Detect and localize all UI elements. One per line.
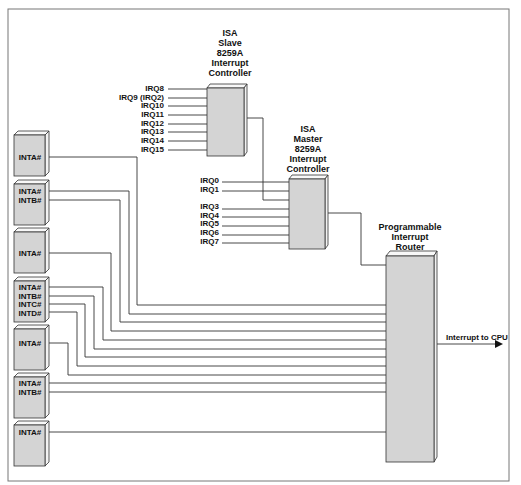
master-controller-box bbox=[289, 179, 325, 249]
irq-label: IRQ6 bbox=[200, 228, 219, 237]
router-box bbox=[386, 256, 434, 462]
pci-slot: INTA# INTB# INTC# INTD# bbox=[14, 277, 49, 322]
pin-label: INTB# bbox=[18, 196, 42, 205]
slave-title-line-2: Slave bbox=[218, 38, 242, 48]
router-title-line-2: Interrupt bbox=[392, 232, 429, 242]
irq-label: IRQ10 bbox=[141, 101, 165, 110]
master-title-line-5: Controller bbox=[286, 164, 329, 174]
pci-slot: INTA# INTB# bbox=[14, 373, 49, 418]
pci-slot: INTA# bbox=[14, 325, 49, 370]
master-title-line-4: Interrupt bbox=[290, 154, 327, 164]
pci-slot: INTA# INTB# bbox=[14, 180, 49, 225]
pin-label: INTA# bbox=[19, 379, 42, 388]
pin-label: INTA# bbox=[19, 187, 42, 196]
pin-label: INTA# bbox=[19, 283, 42, 292]
master-title-line-3: 8259A bbox=[295, 144, 322, 154]
irq-label: IRQ7 bbox=[200, 237, 219, 246]
irq-label: IRQ15 bbox=[141, 145, 165, 154]
pin-label: INTA# bbox=[19, 428, 42, 437]
interrupt-router: Programmable Interrupt Router bbox=[378, 222, 441, 462]
interrupt-routing-diagram: ISA Slave 8259A Interrupt Controller IRQ… bbox=[0, 0, 521, 485]
slave-title-line-4: Interrupt bbox=[212, 58, 249, 68]
pin-label: INTC# bbox=[18, 300, 42, 309]
irq-label: IRQ1 bbox=[200, 185, 219, 194]
cpu-output-label: Interrupt to CPU bbox=[446, 333, 508, 342]
pci-slots: INTA# INTA# INTB# INTA# INTA# INTB# INTC… bbox=[14, 131, 49, 466]
router-title-line-1: Programmable bbox=[378, 222, 441, 232]
master-title-line-1: ISA bbox=[300, 124, 316, 134]
pci-slot: INTA# bbox=[14, 228, 49, 273]
pin-label: INTA# bbox=[19, 153, 42, 162]
slave-title-line-3: 8259A bbox=[217, 48, 244, 58]
slave-title-line-5: Controller bbox=[208, 68, 251, 78]
slave-title-line-1: ISA bbox=[222, 28, 238, 38]
irq-label: IRQ0 bbox=[200, 176, 219, 185]
pin-label: INTA# bbox=[19, 249, 42, 258]
irq-label: IRQ13 bbox=[141, 127, 165, 136]
slave-controller-box bbox=[207, 88, 244, 156]
irq-label: IRQ5 bbox=[200, 219, 219, 228]
pin-label: INTA# bbox=[19, 339, 42, 348]
irq-label: IRQ8 bbox=[145, 84, 164, 93]
pci-slot: INTA# bbox=[14, 131, 49, 176]
irq-label: IRQ14 bbox=[141, 136, 165, 145]
master-title-line-2: Master bbox=[293, 134, 323, 144]
pin-label: INTB# bbox=[18, 388, 42, 397]
irq-label: IRQ11 bbox=[141, 110, 164, 119]
pci-slot: INTA# bbox=[14, 421, 49, 466]
pin-label: INTD# bbox=[18, 309, 42, 318]
irq-label: IRQ3 bbox=[200, 202, 219, 211]
router-title-line-3: Router bbox=[396, 242, 425, 252]
